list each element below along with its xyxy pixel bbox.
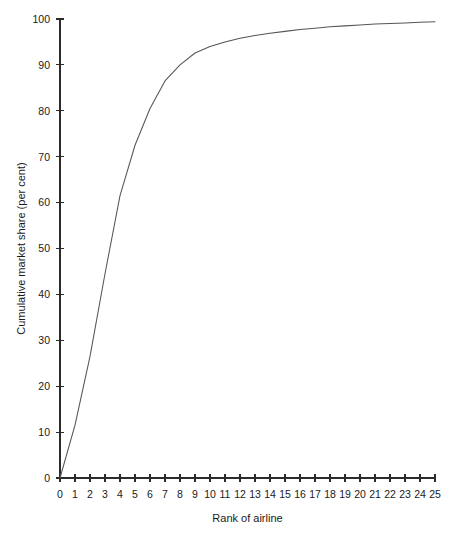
y-tick-label: 100 [32,13,50,25]
x-tick-label: 2 [87,488,93,500]
x-tick-label: 3 [102,488,108,500]
x-tick-label: 5 [132,488,138,500]
y-tick-label: 70 [38,151,50,163]
x-tick-label: 6 [147,488,153,500]
x-tick-label: 24 [414,488,426,500]
y-tick-label: 20 [38,380,50,392]
x-tick-label: 12 [234,488,246,500]
series-line-cumulative-market-share [60,22,435,478]
x-tick-label: 20 [354,488,366,500]
x-tick-label: 22 [384,488,396,500]
x-axis: 0123456789101112131415161718192021222324… [57,474,441,500]
x-axis-title: Rank of airline [212,512,282,524]
x-tick-label: 11 [220,488,231,500]
y-axis-title: Cumulative market share (per cent) [15,162,27,334]
x-tick-label: 0 [57,488,63,500]
x-tick-label: 9 [192,488,198,500]
y-tick-label: 30 [38,334,50,346]
x-tick-label: 1 [72,488,78,500]
cumulative-market-share-chart: 0102030405060708090100 01234567891011121… [0,0,458,537]
x-tick-label: 10 [204,488,216,500]
x-tick-label: 21 [369,488,381,500]
y-tick-label: 80 [38,105,50,117]
x-tick-label: 7 [162,488,168,500]
y-tick-label: 10 [38,426,50,438]
x-tick-label: 23 [399,488,411,500]
x-tick-label: 4 [117,488,123,500]
x-tick-label: 8 [177,488,183,500]
y-tick-label: 40 [38,288,50,300]
y-tick-label: 90 [38,59,50,71]
y-tick-label: 60 [38,196,50,208]
x-tick-label: 13 [249,488,261,500]
y-axis-ticks: 0102030405060708090100 [32,13,64,484]
x-tick-label: 19 [339,488,351,500]
chart-plot-area: 0102030405060708090100 01234567891011121… [0,0,458,537]
x-tick-label: 14 [264,488,276,500]
x-tick-label: 18 [324,488,336,500]
x-tick-label: 15 [279,488,291,500]
y-axis: 0102030405060708090100 [32,13,64,484]
y-tick-label: 0 [44,472,50,484]
x-tick-label: 17 [309,488,321,500]
y-tick-label: 50 [38,242,50,254]
x-tick-label: 16 [294,488,306,500]
data-series-group [60,22,435,478]
x-tick-label: 25 [429,488,441,500]
